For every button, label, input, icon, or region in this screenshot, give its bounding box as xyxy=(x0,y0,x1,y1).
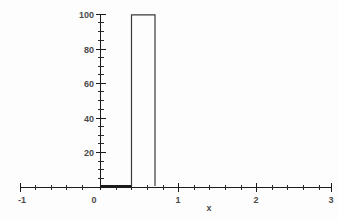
y-tick-label-80: 80 xyxy=(84,45,94,55)
x-tick-label-1: 1 xyxy=(175,195,180,205)
x-tick-label-neg1: -1 xyxy=(18,195,26,205)
x-tick-label-3: 3 xyxy=(328,195,333,205)
y-tick-label-40: 40 xyxy=(84,114,94,124)
y-tick-label-20: 20 xyxy=(84,148,94,158)
y-tick-label-100: 100 xyxy=(79,10,94,20)
x-tick-label-0: 0 xyxy=(91,195,96,205)
x-tick-label-2: 2 xyxy=(253,195,258,205)
bar-rectangle xyxy=(132,15,156,186)
x-axis-title: x xyxy=(206,203,211,213)
chart-screenshot: 100 80 60 40 20 -1 0 1 2 3 x xyxy=(0,0,339,219)
y-tick-label-60: 60 xyxy=(84,79,94,89)
bar-chart-plot: 100 80 60 40 20 -1 0 1 2 3 x xyxy=(0,0,339,219)
